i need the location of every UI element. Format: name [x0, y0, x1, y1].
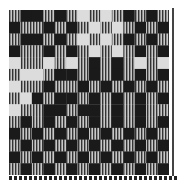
weave-cell [135, 45, 147, 57]
weave-cell [100, 151, 112, 163]
weave-cell [66, 151, 78, 163]
weave-cell [55, 104, 67, 116]
weave-cell [112, 104, 124, 116]
weave-cell [158, 93, 169, 105]
weave-cell [32, 93, 44, 105]
weave-cell [32, 34, 44, 46]
weave-cell [32, 116, 44, 128]
weave-cell [20, 93, 32, 105]
selvage-edge [172, 8, 174, 176]
weave-cell [55, 140, 67, 152]
weave-cell [20, 128, 32, 140]
weave-cell [32, 104, 44, 116]
weave-cell [135, 10, 147, 22]
weave-cell [135, 151, 147, 163]
weave-cell [135, 69, 147, 81]
weave-cell [123, 104, 135, 116]
weave-cell [158, 10, 169, 22]
weave-cell [123, 81, 135, 93]
weave-cell [32, 163, 44, 175]
weave-cell [135, 57, 147, 69]
weave-cell [78, 10, 90, 22]
weave-cell [146, 45, 158, 57]
weave-cell [9, 81, 21, 93]
weave-cell [43, 116, 55, 128]
weave-cell [146, 57, 158, 69]
weave-cell [43, 140, 55, 152]
weave-cell [112, 163, 124, 175]
weave-cell [9, 22, 21, 34]
weave-cell [55, 10, 67, 22]
weave-cell [43, 69, 55, 81]
weave-cell [89, 116, 101, 128]
weave-cell [89, 93, 101, 105]
weave-cell [66, 22, 78, 34]
weave-cell [9, 69, 21, 81]
weave-cell [112, 93, 124, 105]
weave-cell [89, 57, 101, 69]
weave-cell [20, 116, 32, 128]
weave-cell [158, 151, 169, 163]
weave-cell [66, 93, 78, 105]
weave-cell [55, 22, 67, 34]
weave-cell [20, 57, 32, 69]
weave-cell [158, 116, 169, 128]
weave-cell [146, 34, 158, 46]
weave-cell [20, 34, 32, 46]
weave-cell [146, 81, 158, 93]
weave-cell [146, 22, 158, 34]
weave-cell [100, 128, 112, 140]
weave-cell [89, 45, 101, 57]
weave-cell [32, 151, 44, 163]
weave-cell [89, 81, 101, 93]
weave-cell [146, 116, 158, 128]
weave-cell [123, 69, 135, 81]
weave-cell [158, 57, 169, 69]
weave-cell [20, 45, 32, 57]
weave-cell [89, 34, 101, 46]
weave-cell [146, 10, 158, 22]
weave-cell [100, 81, 112, 93]
weave-cell [66, 45, 78, 57]
weave-cell [158, 22, 169, 34]
weave-cell [78, 45, 90, 57]
weave-cell [78, 34, 90, 46]
weave-cell [100, 163, 112, 175]
weave-cell [135, 34, 147, 46]
weave-cell [100, 57, 112, 69]
weave-cell [32, 10, 44, 22]
weave-cell [43, 34, 55, 46]
weave-cell [123, 34, 135, 46]
weave-cell [55, 163, 67, 175]
weave-cell [123, 163, 135, 175]
weave-cell [146, 69, 158, 81]
weave-cell [43, 57, 55, 69]
weave-cell [123, 140, 135, 152]
weave-cell [32, 69, 44, 81]
weave-cell [43, 22, 55, 34]
weave-cell [158, 45, 169, 57]
weave-cell [43, 151, 55, 163]
weave-cell [66, 163, 78, 175]
weave-cell [100, 104, 112, 116]
weave-cell [32, 45, 44, 57]
weave-cell [135, 163, 147, 175]
weave-cell [9, 34, 21, 46]
weave-cell [123, 128, 135, 140]
weave-cell [32, 81, 44, 93]
weave-cell [123, 116, 135, 128]
weave-cell [78, 81, 90, 93]
weave-cell [43, 45, 55, 57]
weave-cell [100, 10, 112, 22]
fringe-edge [9, 176, 177, 180]
weave-cell [89, 22, 101, 34]
weave-cell [32, 140, 44, 152]
weave-cell [66, 69, 78, 81]
weave-cell [32, 128, 44, 140]
weave-cell [66, 81, 78, 93]
weave-cell [9, 140, 21, 152]
weave-cell [112, 140, 124, 152]
weave-cell [123, 45, 135, 57]
weave-cell [100, 116, 112, 128]
weave-cell [158, 128, 169, 140]
